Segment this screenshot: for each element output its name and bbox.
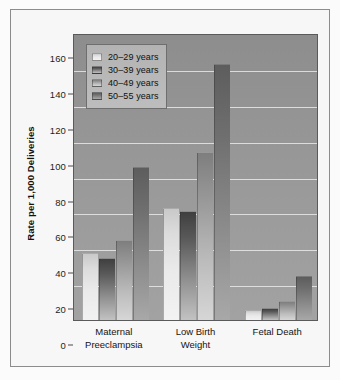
y-axis: Rate per 1,000 Deliveries 02040608010012… <box>11 34 73 321</box>
bar <box>279 301 295 320</box>
x-axis-category-label: Low BirthWeight <box>176 325 216 351</box>
legend-item-label: 20–29 years <box>108 52 159 62</box>
bar <box>197 152 213 320</box>
bar <box>82 253 98 320</box>
legend-item: 50–55 years <box>92 90 159 102</box>
legend-item: 20–29 years <box>92 51 159 63</box>
legend-swatch-icon <box>92 92 102 100</box>
legend-item: 40–49 years <box>92 77 159 89</box>
bar <box>133 167 149 320</box>
bar <box>99 258 115 320</box>
y-axis-tick-label: 40 <box>55 268 66 279</box>
y-axis-tick-label: 140 <box>50 88 66 99</box>
bar <box>262 308 278 320</box>
legend-item-label: 50–55 years <box>108 91 159 101</box>
x-axis-category-label: Fetal Death <box>253 325 302 338</box>
legend-item-label: 40–49 years <box>108 78 159 88</box>
plot-area: 20–29 years30–39 years40–49 years50–55 y… <box>73 34 318 321</box>
y-axis-tick-label: 20 <box>55 304 66 315</box>
figure-frame: Rate per 1,000 Deliveries 02040608010012… <box>10 9 330 367</box>
y-axis-tick-label: 80 <box>55 196 66 207</box>
legend-swatch-icon <box>92 53 102 61</box>
y-axis-tick-label: 120 <box>50 124 66 135</box>
y-axis-title: Rate per 1,000 Deliveries <box>25 69 36 299</box>
bar <box>214 64 230 320</box>
legend-swatch-icon <box>92 79 102 87</box>
legend-item: 30–39 years <box>92 64 159 76</box>
y-axis-tick-label: 60 <box>55 232 66 243</box>
bar <box>180 211 196 320</box>
x-axis-category-label: MaternalPreeclampsia <box>85 325 143 351</box>
bar-group <box>237 35 319 320</box>
bar <box>116 240 132 320</box>
chart-figure: Rate per 1,000 Deliveries 02040608010012… <box>0 0 340 380</box>
y-axis-tick-label: 100 <box>50 160 66 171</box>
y-axis-tick-label: 160 <box>50 53 66 64</box>
legend: 20–29 years30–39 years40–49 years50–55 y… <box>86 44 167 109</box>
bar <box>245 310 261 320</box>
bar <box>163 208 179 320</box>
x-axis: MaternalPreeclampsiaLow BirthWeightFetal… <box>73 323 318 369</box>
legend-item-label: 30–39 years <box>108 65 159 75</box>
y-axis-tick-label: 0 <box>61 340 66 351</box>
bar <box>296 276 312 320</box>
bar-group <box>156 35 238 320</box>
legend-swatch-icon <box>92 66 102 74</box>
